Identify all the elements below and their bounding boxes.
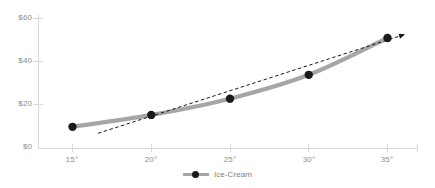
data-point-marker — [305, 71, 313, 79]
data-point-marker — [226, 94, 234, 102]
legend-label-ice-cream: Ice-Cream — [214, 170, 252, 179]
x-axis-label-35: 35° — [367, 155, 407, 164]
trendline-arrow-icon — [398, 34, 405, 39]
y-axis-label-0: $0 — [6, 142, 32, 151]
legend-marker-icon — [192, 171, 199, 178]
x-axis-label-25: 25° — [210, 155, 250, 164]
y-axis-label-40: $40 — [6, 56, 32, 65]
x-axis-label-15: 15° — [52, 155, 92, 164]
chart-container: $60 $40 $20 $0 15° 20° 25° 30° 35° Ice-C… — [0, 0, 435, 188]
chart-legend: Ice-Cream — [0, 170, 435, 179]
legend-key-ice-cream — [183, 170, 209, 179]
y-axis-label-60: $60 — [6, 13, 32, 22]
x-axis-label-30: 30° — [289, 155, 329, 164]
data-point-marker — [383, 34, 391, 42]
y-axis-label-20: $20 — [6, 99, 32, 108]
trendline-dashed — [98, 34, 405, 133]
data-point-marker — [68, 123, 76, 131]
x-axis-label-20: 20° — [131, 155, 171, 164]
series-line-ice-cream — [73, 38, 388, 127]
series-markers — [68, 34, 391, 131]
data-point-marker — [147, 111, 155, 119]
